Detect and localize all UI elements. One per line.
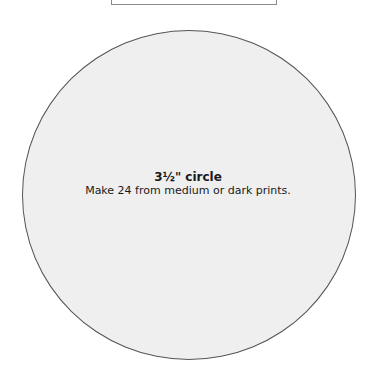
previous-template-box	[111, 0, 277, 5]
template-title: 3½" circle	[0, 170, 376, 184]
template-instruction: Make 24 from medium or dark prints.	[0, 184, 376, 197]
